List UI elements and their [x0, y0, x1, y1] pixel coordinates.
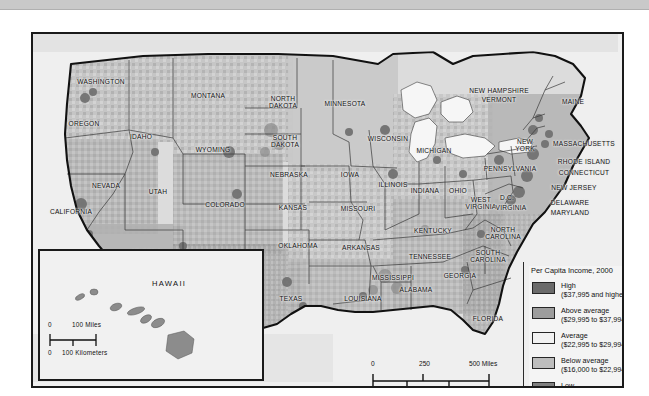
legend-swatch-below-average — [532, 357, 555, 369]
hawaii-scale-graphic — [48, 332, 128, 348]
scale-miles-tick-0: 0 — [371, 360, 375, 367]
page-canvas: WASHINGTONOREGONIDAHOMONTANAWYOMINGNEVAD… — [0, 10, 649, 396]
hawaii-scale-km-100: 100 Kilometers — [62, 349, 107, 356]
map-legend: Per Capita Income, 2000 High($37,995 and… — [529, 266, 624, 388]
legend-label: Average — [561, 331, 624, 340]
legend-title: Per Capita Income, 2000 — [531, 266, 613, 275]
legend-text: Below average($16,000 to $22,994) — [561, 356, 624, 375]
legend-label: Below average — [561, 356, 624, 365]
hawaii-scale-miles-100: 100 Miles — [72, 321, 101, 328]
legend-text: High($37,995 and higher) — [561, 281, 624, 300]
scale-bar-graphic — [371, 371, 521, 388]
legend-text: Above average($29,995 to $37,994) — [561, 306, 624, 325]
hawaii-scale-bar: 0 100 Miles 0 100 Kilometers — [48, 321, 128, 359]
legend-label: Low — [561, 381, 613, 388]
map-frame: WASHINGTONOREGONIDAHOMONTANAWYOMINGNEVAD… — [31, 32, 624, 388]
legend-item-below-average: Below average($16,000 to $22,994) — [532, 356, 624, 375]
scale-bar: 0 250 500 Miles 0 250 500 Kilometers — [371, 360, 521, 388]
legend-text: Average($22,995 to $29,994) — [561, 331, 624, 350]
legend-swatch-low — [532, 382, 555, 388]
window-top-bar — [0, 0, 649, 10]
legend-range: ($22,995 to $29,994) — [561, 340, 624, 349]
hawaii-label: HAWAII — [152, 279, 186, 288]
scale-miles-tick-500: 500 Miles — [469, 360, 497, 367]
legend-item-above-average: Above average($29,995 to $37,994) — [532, 306, 624, 325]
scale-miles-tick-250: 250 — [419, 360, 430, 367]
legend-range: ($37,995 and higher) — [561, 290, 624, 299]
legend-swatch-average — [532, 332, 555, 344]
hawaii-scale-km-0: 0 — [48, 349, 52, 356]
legend-swatch-high — [532, 282, 555, 294]
hawaii-scale-miles-0: 0 — [48, 321, 52, 328]
legend-label: Above average — [561, 306, 624, 315]
legend-divider — [523, 262, 524, 388]
legend-text: Low(Below $16,000) — [561, 381, 613, 388]
hawaii-inset: HAWAII 0 100 Miles 0 100 Kilometers — [38, 249, 264, 381]
legend-item-high: High($37,995 and higher) — [532, 281, 624, 300]
legend-label: High — [561, 281, 624, 290]
legend-range: ($29,995 to $37,994) — [561, 315, 624, 324]
legend-item-average: Average($22,995 to $29,994) — [532, 331, 624, 350]
legend-item-low: Low(Below $16,000) — [532, 381, 613, 388]
legend-swatch-above-average — [532, 307, 555, 319]
legend-range: ($16,000 to $22,994) — [561, 365, 624, 374]
